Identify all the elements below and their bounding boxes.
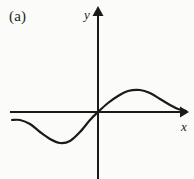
x-axis-arrow-icon [180, 107, 189, 118]
figure-panel: (a) y x [0, 0, 194, 179]
graph-canvas [0, 0, 194, 179]
y-axis-label: y [84, 8, 90, 21]
x-axis-label: x [181, 120, 187, 133]
y-axis-arrow-icon [93, 6, 104, 16]
